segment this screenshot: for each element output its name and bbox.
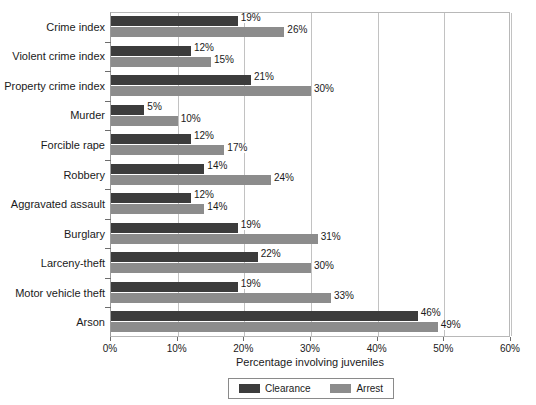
bar-clearance — [111, 75, 251, 85]
bar-clearance — [111, 164, 204, 174]
bar-clearance — [111, 311, 418, 321]
bar-group: 14%24% — [111, 161, 509, 191]
y-axis-category-label: Burglary — [0, 228, 105, 240]
y-axis-tick — [105, 42, 111, 43]
x-axis-tick-label: 30% — [290, 343, 330, 354]
bar-clearance — [111, 16, 238, 26]
bar-chart: 19%26%12%15%21%30%5%10%12%17%14%24%12%14… — [0, 0, 536, 405]
bar-group: 19%33% — [111, 279, 509, 309]
bar-arrest — [111, 293, 331, 303]
y-axis-category-label: Property crime index — [0, 80, 105, 92]
bar-arrest — [111, 27, 284, 37]
y-axis-category-label: Violent crime index — [0, 50, 105, 62]
legend-label: Clearance — [265, 383, 311, 394]
x-axis-tick — [243, 337, 244, 341]
bar-value-label: 14% — [206, 161, 228, 171]
bar-clearance — [111, 134, 191, 144]
legend-item: Clearance — [239, 383, 311, 394]
bar-value-label: 30% — [313, 261, 335, 271]
bar-arrest — [111, 86, 311, 96]
bar-value-label: 33% — [333, 291, 355, 301]
plot-area: 19%26%12%15%21%30%5%10%12%17%14%24%12%14… — [110, 12, 510, 337]
bar-value-label: 17% — [226, 143, 248, 153]
bar-value-label: 12% — [193, 43, 215, 53]
bar-value-label: 22% — [260, 249, 282, 259]
bar-value-label: 24% — [273, 173, 295, 183]
x-axis-tick-label: 40% — [357, 343, 397, 354]
x-axis-tick — [510, 337, 511, 341]
x-axis-tick-label: 10% — [157, 343, 197, 354]
x-axis-tick — [377, 337, 378, 341]
y-axis-tick — [105, 248, 111, 249]
bar-value-label: 12% — [193, 190, 215, 200]
x-axis-tick — [177, 337, 178, 341]
bar-group: 19%26% — [111, 13, 509, 43]
bar-value-label: 12% — [193, 131, 215, 141]
bar-group: 12%14% — [111, 190, 509, 220]
legend-label: Arrest — [356, 383, 383, 394]
bar-clearance — [111, 282, 238, 292]
y-axis-tick — [105, 307, 111, 308]
bar-clearance — [111, 105, 144, 115]
bar-group: 46%49% — [111, 308, 509, 338]
bar-group: 21%30% — [111, 72, 509, 102]
y-axis-category-label: Arson — [0, 316, 105, 328]
y-axis-tick — [105, 278, 111, 279]
y-axis-tick — [105, 130, 111, 131]
bar-value-label: 19% — [240, 220, 262, 230]
y-axis-tick — [105, 101, 111, 102]
bar-group: 5%10% — [111, 102, 509, 132]
y-axis-category-label: Motor vehicle theft — [0, 287, 105, 299]
y-axis-labels: Crime indexViolent crime indexProperty c… — [0, 12, 105, 337]
y-axis-tick — [105, 160, 111, 161]
legend-swatch — [239, 384, 260, 393]
y-axis-category-label: Larceny-theft — [0, 257, 105, 269]
bar-value-label: 21% — [253, 72, 275, 82]
bar-group: 12%15% — [111, 43, 509, 73]
y-axis-category-label: Aggravated assault — [0, 198, 105, 210]
bar-value-label: 19% — [240, 279, 262, 289]
bar-value-label: 19% — [240, 13, 262, 23]
x-axis-tick — [110, 337, 111, 341]
legend-swatch — [330, 384, 351, 393]
bar-clearance — [111, 223, 238, 233]
x-axis-title: Percentage involving juveniles — [110, 356, 510, 368]
legend-item: Arrest — [330, 383, 383, 394]
chart-legend: ClearanceArrest — [228, 378, 394, 399]
y-axis-tick — [105, 71, 111, 72]
y-axis-category-label: Forcible rape — [0, 139, 105, 151]
x-axis-tick — [443, 337, 444, 341]
bar-clearance — [111, 193, 191, 203]
bar-value-label: 15% — [213, 55, 235, 65]
bar-value-label: 46% — [420, 308, 442, 318]
bar-arrest — [111, 322, 438, 332]
x-axis-tick-label: 20% — [223, 343, 263, 354]
bar-group: 12%17% — [111, 131, 509, 161]
bar-arrest — [111, 175, 271, 185]
bar-arrest — [111, 116, 178, 126]
x-axis-tick-label: 60% — [490, 343, 530, 354]
bar-arrest — [111, 204, 204, 214]
bar-value-label: 14% — [206, 202, 228, 212]
y-axis-category-label: Murder — [0, 109, 105, 121]
bar-arrest — [111, 263, 311, 273]
bar-clearance — [111, 46, 191, 56]
bar-value-label: 10% — [180, 114, 202, 124]
bar-arrest — [111, 145, 224, 155]
bar-arrest — [111, 57, 211, 67]
bar-group: 19%31% — [111, 220, 509, 250]
bar-value-label: 30% — [313, 84, 335, 94]
bar-group: 22%30% — [111, 249, 509, 279]
bar-arrest — [111, 234, 318, 244]
y-axis-category-label: Robbery — [0, 169, 105, 181]
bar-value-label: 26% — [286, 25, 308, 35]
y-axis-tick — [105, 219, 111, 220]
bar-value-label: 49% — [440, 320, 462, 330]
x-axis-tick — [310, 337, 311, 341]
bar-value-label: 31% — [320, 232, 342, 242]
bar-value-label: 5% — [146, 102, 162, 112]
y-axis-category-label: Crime index — [0, 21, 105, 33]
x-axis-tick-label: 50% — [423, 343, 463, 354]
x-axis-tick-label: 0% — [90, 343, 130, 354]
bar-clearance — [111, 252, 258, 262]
